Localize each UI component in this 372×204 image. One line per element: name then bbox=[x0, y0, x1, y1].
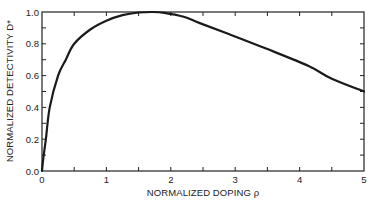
y-tick-label: 0.8 bbox=[26, 38, 39, 49]
detectivity-curve bbox=[42, 12, 364, 171]
axis-ticks bbox=[42, 12, 364, 171]
y-axis-title: NORMALIZED DETECTIVITY D* bbox=[4, 20, 15, 162]
y-tick-label: 0.4 bbox=[26, 102, 39, 113]
plot-border bbox=[42, 12, 364, 171]
x-tick-label: 0 bbox=[39, 174, 44, 185]
y-tick-label: 0.0 bbox=[26, 166, 39, 177]
plot-frame bbox=[42, 12, 364, 171]
x-tick-label: 3 bbox=[233, 174, 238, 185]
x-tick-label: 4 bbox=[297, 174, 302, 185]
y-tick-labels: 0.00.20.40.60.81.0 bbox=[26, 7, 39, 177]
x-tick-label: 1 bbox=[104, 174, 109, 185]
x-axis-title: NORMALIZED DOPING ρ bbox=[147, 187, 260, 198]
x-tick-label: 5 bbox=[361, 174, 366, 185]
y-tick-label: 0.6 bbox=[26, 70, 39, 81]
x-tick-label: 2 bbox=[168, 174, 173, 185]
detectivity-chart: 012345 0.00.20.40.60.81.0 NORMALIZED DOP… bbox=[0, 0, 372, 204]
x-tick-labels: 012345 bbox=[39, 174, 366, 185]
y-tick-label: 1.0 bbox=[26, 7, 39, 18]
y-tick-label: 0.2 bbox=[26, 134, 39, 145]
